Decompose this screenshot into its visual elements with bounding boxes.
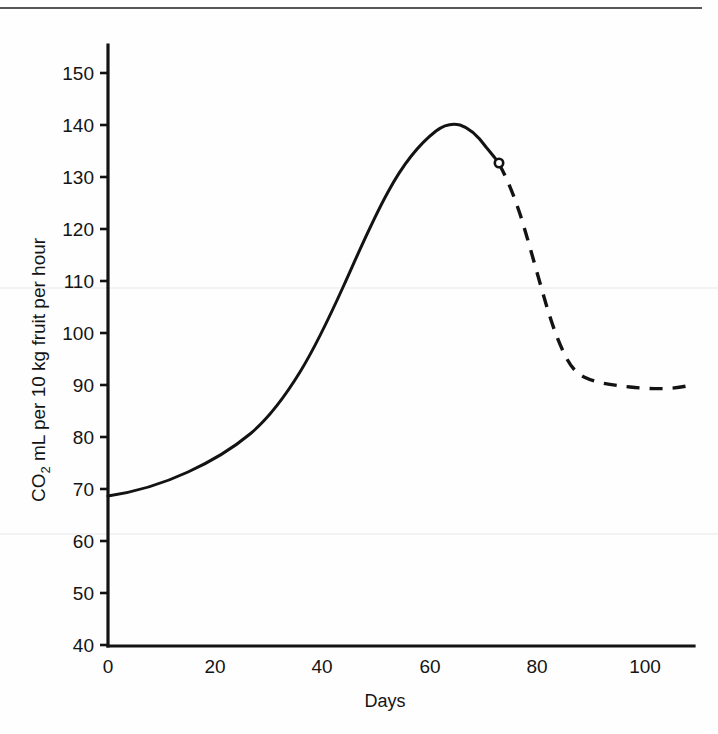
x-tick-label-20: 20 xyxy=(204,656,225,677)
y-axis-title-subscript: 2 xyxy=(38,466,53,473)
x-axis-title: Days xyxy=(364,691,405,711)
x-tick-labels: 0 20 40 60 80 100 xyxy=(103,656,661,677)
series-projected-dashed xyxy=(499,164,691,389)
y-tick-label-110: 110 xyxy=(64,271,94,292)
x-tick-label-60: 60 xyxy=(419,656,440,677)
y-tick-label-50: 50 xyxy=(73,583,94,604)
y-tick-label-120: 120 xyxy=(62,219,94,240)
y-axis-title-group: CO2 mL per 10 kg fruit per hour xyxy=(28,237,53,502)
y-tick-label-40: 40 xyxy=(73,635,94,656)
y-tick-label-90: 90 xyxy=(73,375,94,396)
y-axis-title-suffix: mL per 10 kg fruit per hour xyxy=(28,237,49,466)
y-axis-title: CO2 mL per 10 kg fruit per hour xyxy=(28,237,53,502)
x-tick-label-100: 100 xyxy=(629,656,661,677)
x-tick-label-0: 0 xyxy=(103,656,114,677)
y-tick-label-150: 150 xyxy=(62,63,94,84)
transition-point-marker xyxy=(495,159,503,167)
y-tick-label-80: 80 xyxy=(73,427,94,448)
page-canvas: 40 50 60 70 80 90 100 110 120 130 140 15… xyxy=(0,0,718,734)
y-tick-label-60: 60 xyxy=(73,531,94,552)
y-tick-labels: 40 50 60 70 80 90 100 110 120 130 140 15… xyxy=(62,63,94,656)
y-axis-title-prefix: CO xyxy=(28,474,49,503)
axes-group xyxy=(108,45,694,646)
y-tick-label-130: 130 xyxy=(62,167,94,188)
co2-respiration-chart: 40 50 60 70 80 90 100 110 120 130 140 15… xyxy=(0,0,718,734)
x-tick-label-40: 40 xyxy=(311,656,332,677)
y-tick-label-70: 70 xyxy=(73,479,94,500)
y-tick-label-100: 100 xyxy=(62,323,94,344)
series-measured-solid xyxy=(108,124,499,496)
x-tick-label-80: 80 xyxy=(526,656,547,677)
y-tick-label-140: 140 xyxy=(62,115,94,136)
